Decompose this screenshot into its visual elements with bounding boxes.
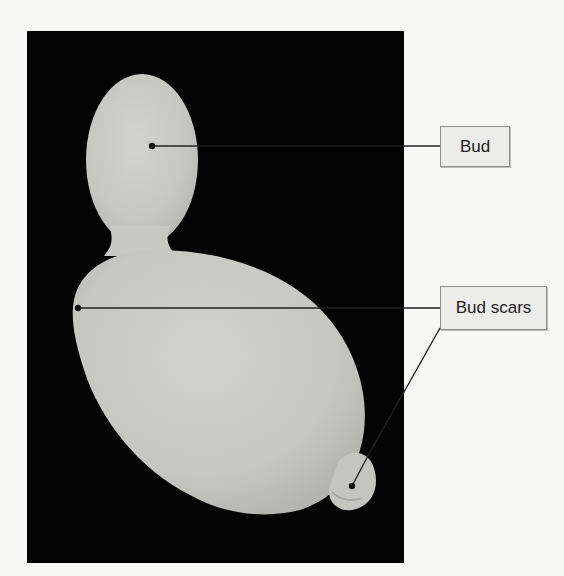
bud-marker-dot (149, 143, 155, 149)
label-bud-text: Bud (460, 137, 490, 157)
yeast-mother-cell (73, 250, 376, 515)
bud-scar-leader-line-2 (352, 328, 440, 486)
label-bud-scars-text: Bud scars (456, 298, 532, 318)
yeast-bud (86, 74, 198, 246)
label-bud-scars: Bud scars (440, 286, 547, 330)
bud-scar-marker-dot-1 (75, 305, 81, 311)
bud-scar-marker-dot-2 (349, 483, 355, 489)
label-bud: Bud (440, 126, 510, 167)
